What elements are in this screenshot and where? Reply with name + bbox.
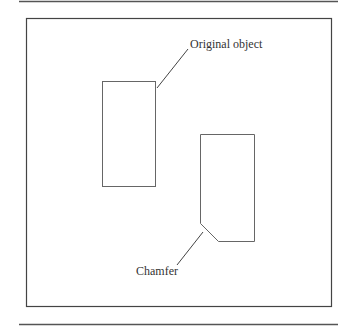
figure-frame (27, 19, 332, 307)
chamfered-object (201, 135, 255, 242)
original-object-rect (103, 82, 156, 187)
original-leader-line (157, 49, 188, 88)
chamfer-leader-line (177, 232, 203, 265)
chamfer-label: Chamfer (136, 264, 178, 279)
original-object-label: Original object (190, 37, 262, 52)
